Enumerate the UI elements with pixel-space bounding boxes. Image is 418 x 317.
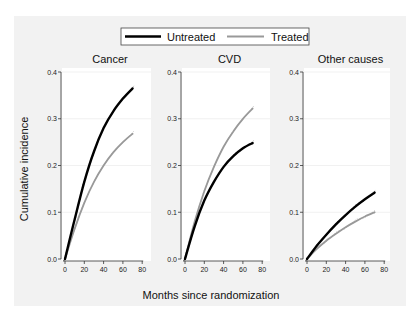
x-tick-label: 20 bbox=[80, 266, 88, 273]
y-tick-label: 0.1 bbox=[289, 209, 299, 216]
chart-canvas: Untreated Treated Cumulative incidence M… bbox=[0, 0, 418, 317]
y-tick-label: 0.3 bbox=[167, 115, 177, 122]
x-tick-label: 40 bbox=[220, 266, 228, 273]
legend-label-untreated: Untreated bbox=[167, 31, 215, 43]
y-tick-label: 0.4 bbox=[289, 69, 299, 76]
panel-title: CVD bbox=[218, 53, 241, 65]
y-tick-label: 0.1 bbox=[47, 209, 57, 216]
x-axis-label: Months since randomization bbox=[143, 289, 280, 301]
y-axis-label: Cumulative incidence bbox=[18, 117, 30, 222]
panel-title: Cancer bbox=[92, 53, 128, 65]
legend: Untreated Treated bbox=[121, 28, 309, 45]
y-tick-label: 0.0 bbox=[167, 256, 177, 263]
panel-area bbox=[304, 68, 390, 261]
x-tick-label: 60 bbox=[239, 266, 247, 273]
x-tick-label: 20 bbox=[200, 266, 208, 273]
panel-other-causes: Other causes0.00.10.20.30.4020406080 bbox=[289, 53, 390, 273]
x-tick-label: 20 bbox=[322, 266, 330, 273]
y-tick-label: 0.0 bbox=[47, 256, 57, 263]
x-tick-label: 40 bbox=[342, 266, 350, 273]
panel-area bbox=[62, 68, 151, 261]
panels: Cancer0.00.10.20.30.4020406080CVD0.00.10… bbox=[47, 53, 390, 273]
y-tick-label: 0.4 bbox=[47, 69, 57, 76]
y-tick-label: 0.2 bbox=[47, 162, 57, 169]
x-tick-label: 60 bbox=[119, 266, 127, 273]
y-tick-label: 0.1 bbox=[167, 209, 177, 216]
chart-figure: Untreated Treated Cumulative incidence M… bbox=[0, 0, 418, 317]
y-tick-label: 0.2 bbox=[289, 162, 299, 169]
y-tick-label: 0.2 bbox=[167, 162, 177, 169]
y-tick-label: 0.4 bbox=[167, 69, 177, 76]
x-tick-label: 0 bbox=[63, 266, 67, 273]
y-tick-label: 0.0 bbox=[289, 256, 299, 263]
x-tick-label: 80 bbox=[380, 266, 388, 273]
panel-title: Other causes bbox=[318, 53, 384, 65]
x-tick-label: 60 bbox=[361, 266, 369, 273]
x-tick-label: 40 bbox=[100, 266, 108, 273]
x-tick-label: 80 bbox=[138, 266, 146, 273]
x-tick-label: 80 bbox=[258, 266, 266, 273]
panel-cancer: Cancer0.00.10.20.30.4020406080 bbox=[47, 53, 151, 273]
x-tick-label: 0 bbox=[305, 266, 309, 273]
y-tick-label: 0.3 bbox=[289, 115, 299, 122]
legend-label-treated: Treated bbox=[271, 31, 309, 43]
x-tick-label: 0 bbox=[183, 266, 187, 273]
y-tick-label: 0.3 bbox=[47, 115, 57, 122]
panel-cvd: CVD0.00.10.20.30.4020406080 bbox=[167, 53, 270, 273]
